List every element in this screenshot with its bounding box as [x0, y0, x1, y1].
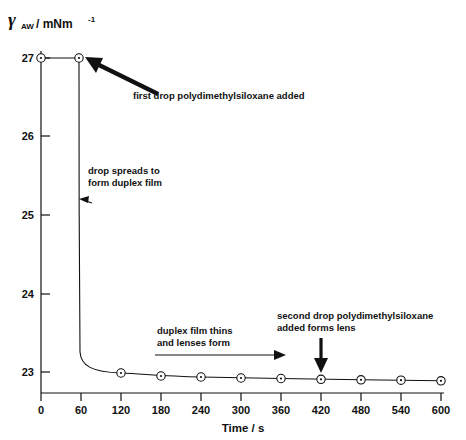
- chart-canvas: γ AW / mNm -1 27 26 25 24 23: [0, 0, 466, 440]
- y-axis-label-unit: / mNm: [36, 17, 73, 31]
- data-point-0: [37, 54, 45, 62]
- x-tick-label-600: 600: [432, 404, 450, 416]
- data-series-line: [41, 58, 441, 381]
- first-drop-annotation-text: first drop polydimethylsiloxane added: [133, 90, 305, 101]
- data-point-240: [197, 373, 205, 381]
- drop-spreads-annotation-line1: drop spreads to: [88, 165, 160, 176]
- x-tick-label-180: 180: [152, 404, 170, 416]
- duplex-thins-annotation-line2: and lenses form: [157, 337, 230, 348]
- x-tick-label-300: 300: [232, 404, 250, 416]
- annotation-second-drop: second drop polydimethylsiloxane added f…: [277, 310, 433, 373]
- surface-tension-chart: γ AW / mNm -1 27 26 25 24 23: [0, 0, 466, 440]
- drop-spreads-arrow-head: [79, 196, 89, 203]
- data-points: [37, 54, 445, 385]
- x-tick-label-60: 60: [75, 404, 87, 416]
- x-tick-label-420: 420: [312, 404, 330, 416]
- annotation-drop-spreads: drop spreads to form duplex film: [79, 165, 162, 203]
- drop-spreads-annotation-line2: form duplex film: [88, 177, 162, 188]
- x-tick-label-360: 360: [272, 404, 290, 416]
- y-tick-label-24: 24: [22, 288, 35, 300]
- second-drop-arrow-head: [314, 358, 328, 373]
- y-tick-label-25: 25: [22, 209, 34, 221]
- x-tick-label-540: 540: [392, 404, 410, 416]
- x-axis-title: Time / s: [222, 422, 265, 434]
- x-tick-label-0: 0: [38, 404, 44, 416]
- data-point-420: [317, 375, 325, 383]
- data-point-120: [117, 369, 125, 377]
- y-axis-label: γ AW / mNm -1: [8, 9, 96, 31]
- annotation-duplex-thins: duplex film thins and lenses form: [155, 325, 286, 360]
- y-tick-label-27: 27: [22, 52, 34, 64]
- x-axis-ticks: 0 60 120 180 240 300 360 420 480 540 600: [38, 393, 450, 416]
- data-point-300: [237, 374, 245, 382]
- data-point-600: [437, 377, 445, 385]
- x-tick-label-120: 120: [112, 404, 130, 416]
- data-point-480: [357, 376, 365, 384]
- data-point-180: [157, 372, 165, 380]
- axes: [41, 51, 444, 393]
- data-point-360: [277, 374, 285, 382]
- second-drop-annotation-line2: added forms lens: [277, 322, 356, 333]
- annotation-first-drop: first drop polydimethylsiloxane added: [85, 57, 305, 101]
- y-axis-label-subscript: AW: [21, 22, 34, 31]
- data-point-540: [397, 376, 405, 384]
- data-point-60: [75, 54, 83, 62]
- y-axis-label-superscript: -1: [88, 15, 96, 24]
- y-tick-label-23: 23: [22, 366, 34, 378]
- x-tick-label-480: 480: [352, 404, 370, 416]
- y-axis-label-symbol: γ: [8, 9, 16, 30]
- duplex-thins-arrow-head: [274, 350, 286, 360]
- x-tick-label-240: 240: [192, 404, 210, 416]
- second-drop-annotation-line1: second drop polydimethylsiloxane: [277, 310, 433, 321]
- duplex-thins-annotation-line1: duplex film thins: [157, 325, 232, 336]
- y-tick-label-26: 26: [22, 130, 34, 142]
- y-axis-ticks: 27 26 25 24 23: [22, 52, 50, 378]
